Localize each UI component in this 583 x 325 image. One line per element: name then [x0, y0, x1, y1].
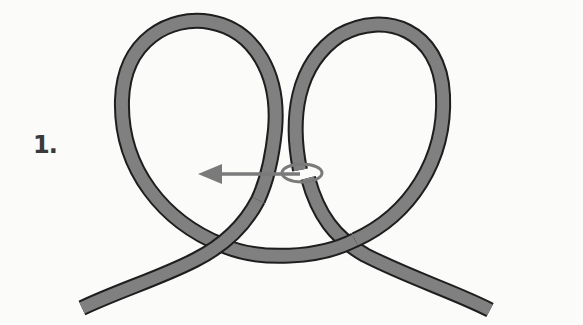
rope-illustration — [0, 0, 583, 325]
knot-diagram: 1. — [0, 0, 583, 325]
right-strand-overlap — [296, 160, 302, 178]
